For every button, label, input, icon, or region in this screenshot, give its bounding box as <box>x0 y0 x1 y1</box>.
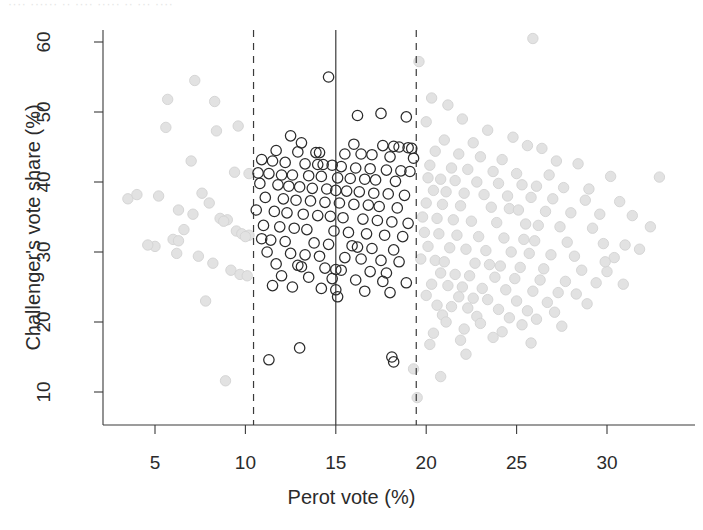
data-point <box>482 294 492 304</box>
data-point <box>300 250 310 260</box>
data-point <box>484 259 494 269</box>
data-point <box>526 192 536 202</box>
data-point <box>193 251 203 261</box>
x-tick-label: 30 <box>596 452 617 474</box>
data-point <box>654 172 664 182</box>
data-point <box>421 117 431 127</box>
data-point <box>502 191 512 201</box>
data-point <box>421 290 431 300</box>
data-point <box>372 215 382 225</box>
data-point <box>188 209 198 219</box>
data-point <box>381 165 391 175</box>
data-point <box>172 248 182 258</box>
data-point <box>289 223 299 233</box>
data-point <box>515 262 525 272</box>
data-point <box>208 258 218 268</box>
data-point <box>520 219 530 229</box>
x-tick-label: 20 <box>416 452 437 474</box>
data-points-outside-bandwidth <box>123 33 665 403</box>
data-point <box>383 189 393 199</box>
data-point <box>466 216 476 226</box>
data-point <box>307 183 317 193</box>
data-point <box>580 195 590 205</box>
x-axis-title: Perot vote (%) <box>0 486 703 509</box>
data-point <box>627 210 637 220</box>
data-point <box>548 194 558 204</box>
data-point <box>571 289 581 299</box>
data-point <box>267 280 277 290</box>
data-point <box>256 154 266 164</box>
data-point <box>557 321 567 331</box>
x-tick-label: 25 <box>506 452 527 474</box>
data-point <box>595 209 605 219</box>
data-point <box>573 159 583 169</box>
data-point <box>529 236 539 246</box>
data-point <box>173 205 183 215</box>
data-point <box>271 259 281 269</box>
data-point <box>540 206 550 216</box>
data-point <box>582 299 592 309</box>
data-point <box>417 212 427 222</box>
data-point <box>204 198 214 208</box>
data-point <box>517 180 527 190</box>
data-point <box>398 231 408 241</box>
data-point <box>349 199 359 209</box>
data-point <box>296 262 306 272</box>
data-point <box>251 205 261 215</box>
data-point <box>282 208 292 218</box>
data-point <box>305 196 315 206</box>
data-point <box>481 245 491 255</box>
data-point <box>341 186 351 196</box>
data-point <box>454 292 464 302</box>
data-point <box>229 167 239 177</box>
data-point <box>445 243 455 253</box>
data-point <box>426 93 436 103</box>
data-point <box>605 171 615 181</box>
data-point <box>316 283 326 293</box>
data-point <box>435 268 445 278</box>
data-point <box>385 152 395 162</box>
data-point <box>173 236 183 246</box>
data-point <box>197 188 207 198</box>
data-point <box>614 196 624 206</box>
data-point <box>408 364 418 374</box>
data-point <box>285 248 295 258</box>
data-point <box>293 147 303 157</box>
data-point <box>269 206 279 216</box>
data-point <box>209 96 219 106</box>
data-point <box>470 258 480 268</box>
data-point <box>219 216 229 226</box>
data-point <box>446 163 456 173</box>
data-point <box>448 215 458 225</box>
data-point <box>591 278 601 288</box>
data-point <box>376 108 386 118</box>
data-point <box>508 132 518 142</box>
data-point <box>435 371 445 381</box>
data-point <box>200 296 210 306</box>
data-point <box>349 139 359 149</box>
data-point <box>524 248 534 258</box>
data-point <box>379 230 389 240</box>
data-point <box>332 173 342 183</box>
data-point <box>408 153 418 163</box>
data-point <box>358 214 368 224</box>
data-point <box>186 156 196 166</box>
data-point <box>378 140 388 150</box>
data-point <box>423 241 433 251</box>
data-point <box>457 282 467 292</box>
data-point <box>455 201 465 211</box>
scatter-plot-figure: ···· ······ ·· ···· ····· ·· ··· ···· 51… <box>0 0 703 530</box>
data-point <box>495 261 505 271</box>
data-point <box>320 197 330 207</box>
data-point <box>432 213 442 223</box>
data-point <box>419 227 429 237</box>
data-point <box>493 178 503 188</box>
data-point <box>542 297 552 307</box>
data-point <box>539 264 549 274</box>
data-point <box>303 171 313 181</box>
data-point <box>303 272 313 282</box>
data-point <box>475 152 485 162</box>
data-point <box>338 213 348 223</box>
x-tick-label: 5 <box>150 452 161 474</box>
data-point <box>426 279 436 289</box>
